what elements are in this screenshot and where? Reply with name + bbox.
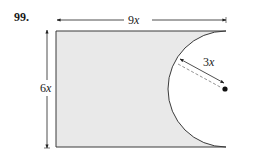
height-label: 6x: [40, 81, 52, 95]
center-point: [222, 86, 227, 91]
shaded-region: [56, 31, 226, 147]
radius-label: 3x: [203, 55, 215, 69]
geometry-figure: 9x 6x 3x: [0, 0, 257, 159]
width-dimension: 9x: [57, 13, 226, 27]
radius-indicator: 3x: [178, 55, 228, 92]
width-label: 9x: [128, 13, 140, 27]
height-dimension: 6x: [40, 30, 52, 148]
